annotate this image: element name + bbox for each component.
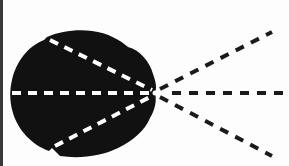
outer-ray-upper (160, 32, 272, 89)
ray-diagram (0, 0, 289, 166)
outer-rays (160, 32, 285, 156)
outer-ray-lower (160, 97, 272, 156)
diagram-frame (0, 0, 289, 166)
focal-point (153, 91, 158, 96)
